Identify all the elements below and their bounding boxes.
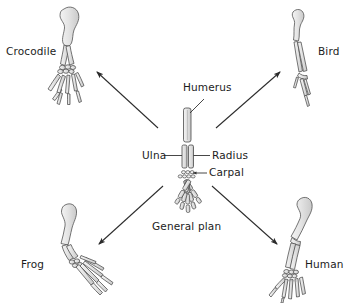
label-humerus: Humerus [183,82,232,93]
label-ulna: Ulna [142,150,166,161]
label-carpal: Carpal [209,167,244,178]
humerus-leader-line [190,99,204,113]
frog-limb [61,204,113,295]
limb-homology-diagram: Crocodile Bird Frog Human General plan H… [0,0,353,303]
human-limb [269,197,312,303]
label-human: Human [305,259,344,270]
label-frog: Frog [21,259,44,270]
label-bird: Bird [318,46,340,57]
arrow-to-human [212,186,277,244]
humerus-bone [184,108,192,142]
bird-limb [292,9,310,106]
arrow-to-frog [99,186,163,244]
carpal-bones [178,171,195,178]
arrow-to-crocodile [97,72,158,128]
label-radius: Radius [212,150,248,161]
label-general-plan: General plan [152,221,221,232]
digits-metacarpals-phalanges [174,179,202,212]
general-plan-limb [174,108,202,213]
label-crocodile: Crocodile [6,46,56,57]
ulna-radius-bones [182,145,194,168]
